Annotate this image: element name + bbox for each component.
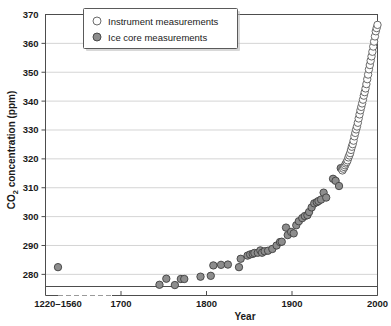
data-point	[156, 281, 163, 288]
y-axis-tick-labels: 280290300310320330340350360370	[23, 9, 39, 280]
y-tick-label: 320	[23, 153, 39, 164]
x-tick-label: 2000	[367, 298, 388, 309]
y-tick-label: 360	[23, 38, 39, 49]
y-axis-ticks-group	[42, 43, 46, 274]
x-tick-label: 1220–1560	[34, 298, 82, 309]
legend-item-ice-core[interactable]: Ice core measurements	[93, 32, 208, 43]
x-tick-label: 1800	[196, 298, 217, 309]
data-point	[237, 255, 244, 262]
y-tick-label: 330	[23, 124, 39, 135]
y-tick-label: 370	[23, 9, 39, 20]
data-point	[224, 261, 231, 268]
svg-text:CO2 concentration (ppm): CO2 concentration (ppm)	[6, 91, 20, 210]
data-point	[54, 263, 61, 270]
instrument-data-points	[339, 21, 381, 174]
y-axis-title-rest: concentration (ppm)	[6, 91, 17, 190]
x-axis-tick-labels: 1220–15601700180019002000	[34, 298, 388, 309]
x-axis-ticks-group	[121, 291, 378, 296]
data-point	[323, 194, 330, 201]
y-tick-label: 300	[23, 211, 39, 222]
ice-core-data-points	[54, 164, 348, 289]
legend[interactable]: Instrument measurements Ice core measure…	[84, 9, 241, 52]
legend-marker-filled-circle	[93, 33, 101, 41]
gridlines-group	[46, 43, 378, 274]
y-tick-label: 280	[23, 269, 39, 280]
data-point	[290, 230, 297, 237]
data-point	[163, 275, 170, 282]
x-tick-label: 1900	[281, 298, 302, 309]
co2-concentration-chart: 280290300310320330340350360370 1220–1560…	[0, 0, 391, 326]
legend-item-instrument[interactable]: Instrument measurements	[93, 16, 219, 27]
data-point	[217, 261, 224, 268]
data-point	[278, 238, 285, 245]
data-point	[210, 262, 217, 269]
data-point	[207, 272, 214, 279]
y-tick-label: 340	[23, 96, 39, 107]
x-axis-title-text: Year	[234, 311, 255, 322]
chart-canvas: 280290300310320330340350360370 1220–1560…	[0, 0, 391, 326]
data-point	[335, 182, 342, 189]
y-tick-label: 290	[23, 240, 39, 251]
legend-label-instrument: Instrument measurements	[108, 16, 219, 27]
y-axis-title: CO2 concentration (ppm)	[6, 91, 20, 210]
legend-label-ice-core: Ice core measurements	[108, 32, 208, 43]
x-axis-left-stub	[46, 287, 59, 296]
data-point	[181, 275, 188, 282]
y-tick-label: 350	[23, 67, 39, 78]
data-point	[171, 281, 178, 288]
y-tick-label: 310	[23, 182, 39, 193]
x-tick-label: 1700	[110, 298, 131, 309]
x-axis-title: Year	[234, 311, 255, 322]
data-point	[235, 263, 242, 270]
x-axis-main-line	[112, 287, 378, 296]
data-point	[374, 21, 381, 28]
y-axis-title-main: CO	[6, 194, 17, 209]
legend-marker-open-circle	[93, 17, 101, 25]
data-point	[197, 273, 204, 280]
